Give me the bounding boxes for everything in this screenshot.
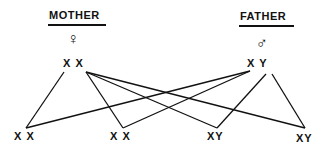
offspring-1-chromosomes: X X (14, 130, 35, 142)
offspring-3-chromosomes: XY (207, 130, 224, 142)
offspring-2-chromosomes: X X (110, 130, 131, 142)
offspring-4-chromosomes: XY (296, 132, 313, 144)
inheritance-lines (0, 0, 326, 148)
